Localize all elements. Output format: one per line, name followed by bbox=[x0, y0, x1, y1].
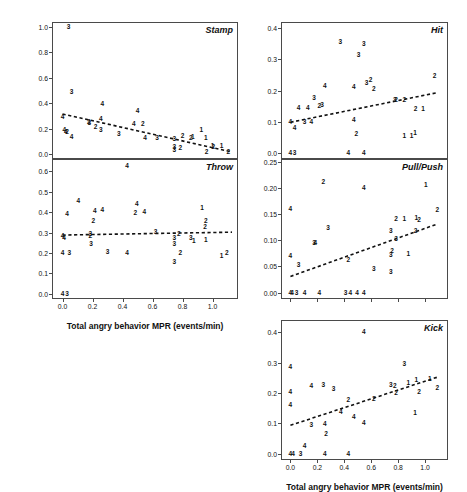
x-tick bbox=[153, 299, 154, 302]
data-point: 3 bbox=[297, 262, 301, 269]
data-point: 4 bbox=[314, 240, 318, 247]
data-point: 3 bbox=[303, 119, 307, 126]
data-point: 4 bbox=[291, 451, 295, 458]
data-point: 4 bbox=[70, 134, 74, 141]
data-point: 3 bbox=[326, 224, 330, 231]
x-tick-label: 0.8 bbox=[178, 303, 187, 310]
data-point: 2 bbox=[322, 178, 326, 185]
data-point: 4 bbox=[355, 289, 359, 296]
data-point: 3 bbox=[338, 39, 342, 46]
panel-hit: 0.00.10.20.30.43333224423322442321434442… bbox=[281, 22, 448, 159]
plot-area: 0.00.10.20.30.43333224423322442321434442… bbox=[281, 22, 448, 159]
y-tick-label: 0.5 bbox=[39, 188, 48, 195]
data-point: 2 bbox=[369, 76, 373, 83]
data-point: 4 bbox=[306, 104, 310, 111]
data-point: 4 bbox=[309, 383, 313, 390]
data-point: 4 bbox=[289, 253, 293, 260]
data-point: 1 bbox=[402, 216, 406, 223]
data-point: 1 bbox=[421, 106, 425, 113]
data-point: 2 bbox=[141, 121, 145, 128]
plot-area: 0.00.10.20.30.40.00.20.40.60.81.04434433… bbox=[281, 320, 448, 460]
x-tick bbox=[123, 299, 124, 302]
data-point: 4 bbox=[100, 101, 104, 108]
data-point: 2 bbox=[94, 123, 98, 130]
data-point: 2 bbox=[91, 218, 95, 225]
x-tick-label: 0.6 bbox=[366, 464, 375, 471]
data-point: 2 bbox=[177, 230, 181, 237]
data-point: 4 bbox=[323, 83, 327, 90]
y-tick-label: 0.25 bbox=[264, 158, 277, 165]
data-point: 1 bbox=[200, 205, 204, 212]
data-point: 4 bbox=[290, 289, 294, 296]
regression-line bbox=[281, 159, 448, 299]
data-point: 4 bbox=[309, 119, 313, 126]
data-point: 2 bbox=[203, 224, 207, 231]
data-point: 4 bbox=[347, 451, 351, 458]
x-tick bbox=[183, 299, 184, 302]
data-point: 3 bbox=[87, 120, 91, 127]
data-point: 2 bbox=[417, 388, 421, 395]
x-tick bbox=[398, 460, 399, 463]
data-point: 4 bbox=[323, 451, 327, 458]
x-tick bbox=[344, 460, 345, 463]
data-point: 4 bbox=[347, 150, 351, 157]
x-tick-label: 0.2 bbox=[88, 303, 97, 310]
data-point: 2 bbox=[133, 210, 137, 217]
x-tick bbox=[93, 299, 94, 302]
data-point: 3 bbox=[389, 268, 393, 275]
data-point: 2 bbox=[394, 216, 398, 223]
data-point: 2 bbox=[355, 131, 359, 138]
y-tick-label: 0.6 bbox=[39, 168, 48, 175]
x-tick-label: 0.4 bbox=[340, 464, 349, 471]
data-point: 2 bbox=[372, 86, 376, 93]
x-axis-title-right: Total angry behavior MPR (events/min) bbox=[281, 482, 448, 492]
data-point: 3 bbox=[65, 291, 69, 298]
data-point: 1 bbox=[402, 132, 406, 139]
data-point: 1 bbox=[220, 253, 224, 260]
plot-area: 0.00.10.20.30.40.50.60.00.20.40.60.81.04… bbox=[52, 159, 238, 299]
data-point: 3 bbox=[154, 228, 158, 235]
data-point: 2 bbox=[435, 207, 439, 214]
x-tick bbox=[398, 299, 399, 302]
data-point: 3 bbox=[99, 127, 103, 134]
data-point: 4 bbox=[61, 113, 65, 120]
panel-title: Stamp bbox=[205, 25, 233, 35]
y-tick-label: 0.1 bbox=[39, 270, 48, 277]
data-point: 4 bbox=[99, 116, 103, 123]
x-tick bbox=[425, 299, 426, 302]
panel-throw: 0.00.10.20.30.40.50.60.00.20.40.60.81.04… bbox=[52, 159, 238, 299]
data-point: 4 bbox=[143, 135, 147, 142]
data-point: 2 bbox=[435, 385, 439, 392]
data-point: 4 bbox=[297, 104, 301, 111]
data-point: 2 bbox=[414, 106, 418, 113]
data-point: 3 bbox=[295, 289, 299, 296]
data-point: 2 bbox=[394, 390, 398, 397]
y-tick-label: 0.4 bbox=[268, 25, 277, 32]
data-point: 4 bbox=[303, 443, 307, 450]
data-point: 4 bbox=[349, 289, 353, 296]
data-point: 4 bbox=[125, 250, 129, 257]
data-point: 2 bbox=[211, 144, 215, 151]
data-point: 4 bbox=[289, 364, 293, 371]
data-point: 4 bbox=[100, 207, 104, 214]
data-point: 4 bbox=[62, 234, 66, 241]
x-tick-label: 0.8 bbox=[393, 464, 402, 471]
data-point: 1 bbox=[220, 143, 224, 150]
data-point: 3 bbox=[357, 51, 361, 58]
data-point: 4 bbox=[362, 150, 366, 157]
x-tick bbox=[290, 299, 291, 302]
x-tick-label: 0.2 bbox=[313, 464, 322, 471]
data-point: 4 bbox=[289, 206, 293, 213]
x-tick-label: 0.0 bbox=[58, 303, 67, 310]
data-point: 4 bbox=[352, 414, 356, 421]
data-point: 3 bbox=[293, 150, 297, 157]
data-point: 1 bbox=[424, 182, 428, 189]
y-tick-label: 0.4 bbox=[39, 100, 48, 107]
x-tick-label: 0.6 bbox=[148, 303, 157, 310]
data-point: 3 bbox=[402, 360, 406, 367]
data-point: 4 bbox=[293, 125, 297, 132]
data-point: 4 bbox=[76, 198, 80, 205]
data-point: 4 bbox=[135, 201, 139, 208]
panel-kick: 0.00.10.20.30.40.00.20.40.60.81.04434433… bbox=[281, 320, 448, 460]
